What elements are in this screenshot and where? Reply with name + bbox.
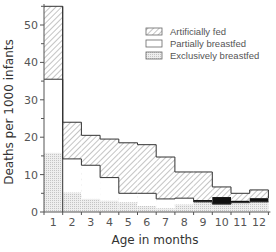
x-tick-label: 4 [106,216,113,229]
bar-exclusively-breastfed [156,208,175,212]
bar-exclusively-breastfed [63,193,82,212]
bar-exclusively-breastfed [138,206,157,212]
y-axis-title: Deaths per 1000 infants [2,39,16,185]
bar-exclusively-breastfed [100,201,119,212]
x-tick-label: 3 [87,216,94,229]
legend-swatch [146,52,162,59]
bar-exclusively-breastfed [119,202,138,212]
x-tick-label: 6 [143,216,150,229]
bar-exclusively-breastfed [212,204,231,212]
legend: Artificially fedPartially breastfedExclu… [146,26,259,61]
bar-exclusively-breastfed [231,203,250,212]
x-tick-label: 5 [125,216,132,229]
x-tick-label: 1 [50,216,57,229]
x-tick-label: 9 [199,216,206,229]
overlap-band [250,198,269,202]
legend-item: Partially breastfed [146,38,246,49]
x-tick-label: 8 [181,216,188,229]
y-tick-label: 50 [24,19,38,32]
y-tick-label: 0 [31,206,38,219]
x-tick-label: 12 [252,216,266,229]
x-tick-label: 7 [162,216,169,229]
legend-swatch [146,28,162,35]
bar-exclusively-breastfed [81,199,100,212]
y-tick-label: 20 [24,131,38,144]
overlap-band [212,197,231,204]
legend-label: Exclusively breastfed [170,50,259,61]
legend-label: Artificially fed [170,26,226,37]
chart: 01020304050123456789101112 Artificially … [0,0,276,252]
y-tick-label: 40 [24,56,38,69]
bar-exclusively-breastfed [250,202,269,212]
x-tick-label: 2 [69,216,76,229]
y-tick-label: 10 [24,169,38,182]
x-axis-title: Age in months [112,233,199,247]
bar-exclusively-breastfed [175,205,194,212]
x-tick-label: 10 [215,216,229,229]
legend-label: Partially breastfed [170,38,246,49]
bar-exclusively-breastfed [44,153,63,212]
legend-item: Artificially fed [146,26,226,37]
legend-swatch [146,40,162,47]
bar-exclusively-breastfed [194,202,213,212]
legend-item: Exclusively breastfed [146,50,259,61]
y-tick-label: 30 [24,94,38,107]
x-tick-label: 11 [233,216,247,229]
